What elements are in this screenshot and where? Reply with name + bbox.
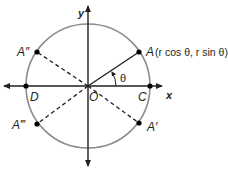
origin-label: O xyxy=(89,90,98,104)
radius-OA xyxy=(88,52,139,86)
angle-theta-arc xyxy=(112,72,116,86)
point-A-triple-prime-label: A‴ xyxy=(11,118,26,132)
point-C-label: C xyxy=(138,90,147,104)
point-A-coords: (r cos θ, r sin θ) xyxy=(155,46,228,58)
point-D-label: D xyxy=(30,90,39,104)
unit-circle-diagram: y x O θ A (r cos θ, r sin θ) A″ A‴ A′ C … xyxy=(0,0,228,169)
dashed-OA-triple-prime xyxy=(37,86,88,124)
dashed-OA-double-prime xyxy=(37,52,88,86)
point-A-label: A xyxy=(145,45,154,59)
point-C xyxy=(147,83,152,88)
point-A-triple-prime xyxy=(34,121,39,126)
x-axis-label: x xyxy=(165,89,173,101)
point-A xyxy=(136,49,141,54)
y-axis-label: y xyxy=(77,7,85,19)
point-A-prime xyxy=(136,120,141,125)
point-A-double-prime xyxy=(34,49,39,54)
angle-theta-label: θ xyxy=(120,72,126,84)
point-A-prime-label: A′ xyxy=(146,120,158,134)
point-A-double-prime-label: A″ xyxy=(16,45,30,59)
point-D xyxy=(23,83,28,88)
